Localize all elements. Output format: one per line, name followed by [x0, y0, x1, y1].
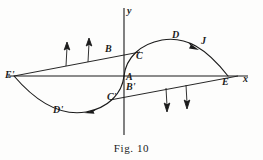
- point-label-b: B: [105, 44, 112, 54]
- lower-flow-marker-icon: [84, 109, 97, 114]
- point-label-b-prime: B': [126, 82, 136, 92]
- upper-secant-line: [14, 52, 140, 76]
- point-label-c-prime: C': [107, 92, 117, 102]
- up-arrow-2-icon: [86, 38, 92, 62]
- point-label-c: C: [136, 51, 143, 61]
- point-label-j: J: [201, 36, 206, 46]
- up-arrow-1-icon: [64, 42, 70, 66]
- figure-10-container: y x E' B C D J A B' C' D' E Fig. 10: [0, 0, 263, 160]
- point-label-d-prime: D': [53, 105, 63, 115]
- axis-label-y: y: [127, 6, 132, 16]
- down-arrow-1-icon: [164, 88, 170, 112]
- down-arrow-2-icon: [184, 85, 190, 109]
- figure-caption: Fig. 10: [0, 142, 263, 154]
- point-label-e-prime: E': [5, 70, 15, 80]
- point-label-e: E: [222, 77, 229, 87]
- upper-flow-marker-icon: [188, 42, 199, 50]
- point-label-d: D: [172, 30, 179, 40]
- axis-label-x: x: [243, 74, 248, 84]
